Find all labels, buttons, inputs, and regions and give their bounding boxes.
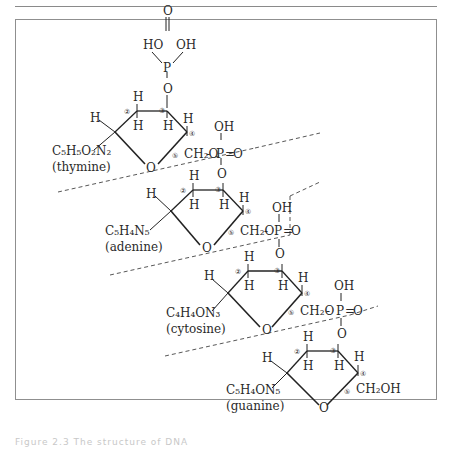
carbon-number-3: ③: [274, 267, 280, 275]
carbon-number-2: ②: [294, 348, 300, 356]
carbon-number-4: ④: [245, 208, 251, 216]
base-name: (thymine): [52, 160, 111, 174]
carbon-number-3: ③: [159, 107, 165, 115]
bond-dash: -: [326, 304, 330, 318]
phosphate-link-o: O: [217, 167, 227, 181]
h-atom: H: [244, 250, 254, 264]
phosphate-oh: OH: [334, 279, 354, 293]
nucleotide-guanine: H H H H H ② ③ ④ ⑤ O CH₂OH C₅H₄ON₅ (guani…: [226, 330, 401, 415]
nucleotide-thymine: H H H H H ② ③ ④ ⑤ O CH₂O - P = O OH O C₅…: [52, 90, 243, 181]
carbon-number-5: ⑤: [228, 229, 234, 237]
h-atom: H: [133, 90, 143, 104]
phosphate-p: P: [216, 147, 224, 161]
carbon-number-2: ②: [235, 268, 241, 276]
carbon-number-5: ⑤: [288, 309, 294, 317]
bond-dash: -: [264, 224, 268, 238]
phosphate-link-o: O: [275, 247, 285, 261]
h-atom: H: [90, 111, 100, 125]
top-phosphate-ho: HO: [143, 38, 163, 52]
h-atom: H: [278, 279, 288, 293]
h-atom: H: [189, 198, 199, 212]
ring-oxygen: O: [202, 241, 212, 255]
phosphate-p: P: [336, 304, 344, 318]
base-name: (guanine): [226, 399, 284, 413]
h-atom: H: [303, 359, 313, 373]
bond-dash: -: [206, 147, 210, 161]
c5-group: CH₂OH: [356, 382, 401, 396]
phosphate-oh: OH: [272, 201, 292, 215]
carbon-number-4: ④: [304, 290, 310, 298]
nucleotide-cytosine: H H H H H ② ③ ④ ⑤ O CH₂O - P = O OH O C₄…: [166, 250, 363, 341]
carbon-number-2: ②: [180, 187, 186, 195]
top-phosphate-double-o: O: [163, 4, 173, 18]
phosphate-link-o: O: [337, 327, 347, 341]
figure-caption: Figure 2.3 The structure of DNA: [15, 437, 188, 447]
dna-strand-diagram: HO OH O P O H H H H H ② ③ ④ ⑤ O CH₂O - P…: [0, 0, 452, 449]
phosphate-double-o: O: [233, 147, 243, 161]
h-atom: H: [133, 119, 143, 133]
base-formula: C₅H₄N₅: [105, 224, 150, 238]
carbon-number-4: ④: [189, 130, 195, 138]
phosphate-oh: OH: [214, 120, 234, 134]
phosphate-p: P: [274, 224, 282, 238]
ring-oxygen: O: [319, 401, 329, 415]
h-atom: H: [239, 191, 249, 205]
h-atom: H: [189, 169, 199, 183]
carbon-number-2: ②: [124, 108, 130, 116]
h-atom: H: [163, 119, 173, 133]
top-phosphate-o-link: O: [163, 82, 173, 96]
top-phosphate-p: P: [163, 61, 171, 75]
c5-group: CH₂O: [240, 224, 274, 238]
h-atom: H: [262, 351, 272, 365]
ring-oxygen: O: [146, 161, 156, 175]
carbon-number-4: ④: [360, 370, 366, 378]
base-formula: C₅H₅O₂N₂: [52, 144, 111, 158]
carbon-number-5: ⑤: [344, 388, 350, 396]
h-atom: H: [204, 269, 214, 283]
base-formula: C₅H₄ON₅: [226, 383, 281, 397]
h-atom: H: [219, 198, 229, 212]
h-atom: H: [303, 330, 313, 344]
carbon-number-5: ⑤: [172, 152, 178, 160]
carbon-number-3: ③: [215, 186, 221, 194]
h-atom: H: [183, 112, 193, 126]
base-formula: C₄H₄ON₃: [166, 306, 221, 320]
base-name: (cytosine): [166, 322, 226, 336]
phosphate-double-o: O: [291, 224, 301, 238]
nucleotide-adenine: H H H H H ② ③ ④ ⑤ O CH₂O - P = O OH O C₅…: [105, 169, 301, 261]
base-name: (adenine): [105, 240, 163, 254]
phosphate-double-o: O: [353, 304, 363, 318]
top-phosphate-oh: OH: [176, 38, 196, 52]
carbon-number-3: ③: [330, 347, 336, 355]
c5-group: CH₂O: [184, 147, 218, 161]
h-atom: H: [146, 187, 156, 201]
h-atom: H: [334, 359, 344, 373]
ring-oxygen: O: [262, 323, 272, 337]
h-atom: H: [244, 279, 254, 293]
h-atom: H: [354, 350, 364, 364]
h-atom: H: [298, 271, 308, 285]
